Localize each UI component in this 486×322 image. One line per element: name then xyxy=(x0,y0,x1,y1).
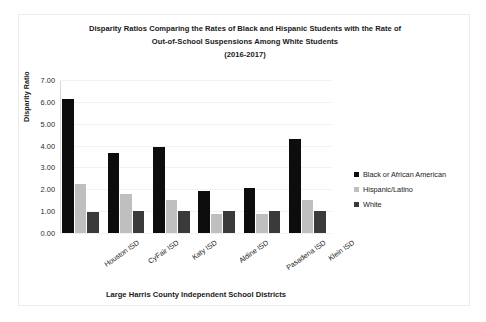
bar-group xyxy=(108,80,145,233)
bar-group xyxy=(289,80,326,233)
bar[interactable] xyxy=(211,214,223,233)
bar[interactable] xyxy=(289,139,301,233)
chart-title-line-2: Out-of-School Suspensions Among White St… xyxy=(40,35,450,48)
y-tick-label: 6.00 xyxy=(41,97,55,106)
legend-swatch-icon xyxy=(354,202,359,207)
y-tick-label: 2.00 xyxy=(41,185,55,194)
y-tick-label: 4.00 xyxy=(41,141,55,150)
legend-item[interactable]: Hispanic/Latino xyxy=(354,182,446,197)
bar-group xyxy=(244,80,281,233)
bar[interactable] xyxy=(120,194,132,233)
bar[interactable] xyxy=(75,184,87,233)
chart-screenshot: Disparity Ratios Comparing the Rates of … xyxy=(0,0,486,322)
gridline xyxy=(60,233,332,234)
legend-swatch-icon xyxy=(354,187,359,192)
legend-item[interactable]: Black or African American xyxy=(354,167,446,182)
bar[interactable] xyxy=(166,200,178,233)
legend-label: Black or African American xyxy=(363,170,446,179)
y-tick-label: 7.00 xyxy=(41,76,55,85)
bar-group xyxy=(62,80,99,233)
chart-title-line-3: (2016-2017) xyxy=(40,48,450,61)
bar[interactable] xyxy=(314,211,326,233)
bar[interactable] xyxy=(269,211,281,233)
bar-group xyxy=(198,80,235,233)
legend-swatch-icon xyxy=(354,172,359,177)
y-axis-title: Disparity Ratio xyxy=(22,71,31,122)
bar[interactable] xyxy=(108,153,120,233)
bar[interactable] xyxy=(302,200,314,233)
x-axis-title: Large Harris County Independent School D… xyxy=(60,290,332,299)
bar[interactable] xyxy=(153,147,165,233)
bar[interactable] xyxy=(244,188,256,233)
bar[interactable] xyxy=(133,211,145,233)
y-tick-label: 3.00 xyxy=(41,163,55,172)
bar[interactable] xyxy=(87,212,99,233)
y-tick-label: 1.00 xyxy=(41,207,55,216)
bar-group xyxy=(153,80,190,233)
bar[interactable] xyxy=(198,191,210,233)
bar[interactable] xyxy=(256,214,268,233)
chart-legend: Black or African AmericanHispanic/Latino… xyxy=(354,167,446,212)
y-tick-label: 0.00 xyxy=(41,229,55,238)
chart-title-line-1: Disparity Ratios Comparing the Rates of … xyxy=(40,22,450,35)
bar[interactable] xyxy=(178,211,190,233)
legend-label: Hispanic/Latino xyxy=(363,185,413,194)
bar[interactable] xyxy=(62,99,74,233)
chart-title: Disparity Ratios Comparing the Rates of … xyxy=(40,22,450,61)
y-tick-label: 5.00 xyxy=(41,119,55,128)
legend-label: White xyxy=(363,200,382,209)
bar[interactable] xyxy=(223,211,235,233)
plot-area: 0.001.002.003.004.005.006.007.00 xyxy=(60,80,332,233)
legend-item[interactable]: White xyxy=(354,197,446,212)
